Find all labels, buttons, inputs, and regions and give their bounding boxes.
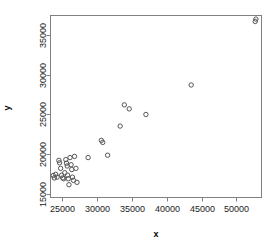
x-tick-label: 50000 [224, 204, 249, 214]
data-point [105, 153, 109, 157]
data-point [189, 83, 193, 87]
data-point [86, 155, 90, 159]
y-axis-title: y [2, 105, 12, 110]
data-point [63, 171, 67, 175]
data-point [122, 103, 126, 107]
y-tick-label: 20000 [38, 142, 48, 167]
x-axis-tick-marks [63, 198, 237, 202]
data-point [58, 166, 62, 170]
y-tick-label: 30000 [38, 63, 48, 88]
x-axis-tick-labels: 250003000035000400004500050000 [50, 204, 249, 214]
x-tick-label: 35000 [120, 204, 145, 214]
x-axis-title: x [153, 229, 158, 239]
y-tick-label: 15000 [38, 182, 48, 207]
data-point [127, 107, 131, 111]
data-point [67, 183, 71, 187]
data-point [74, 166, 78, 170]
data-point [68, 155, 72, 159]
x-tick-label: 25000 [50, 204, 75, 214]
plot-frame [51, 16, 262, 198]
x-tick-label: 40000 [155, 204, 180, 214]
x-tick-label: 45000 [190, 204, 215, 214]
plot-canvas: 250003000035000400004500050000 150002000… [0, 0, 274, 245]
data-point [144, 112, 148, 116]
y-tick-label: 35000 [38, 23, 48, 48]
data-points [51, 17, 258, 187]
y-tick-label: 25000 [38, 102, 48, 127]
x-tick-label: 30000 [85, 204, 110, 214]
data-point [75, 180, 79, 184]
y-axis-tick-labels: 1500020000250003000035000 [38, 23, 48, 207]
data-point [72, 154, 76, 158]
data-point [118, 124, 122, 128]
scatter-plot-figure: 250003000035000400004500050000 150002000… [0, 0, 274, 245]
